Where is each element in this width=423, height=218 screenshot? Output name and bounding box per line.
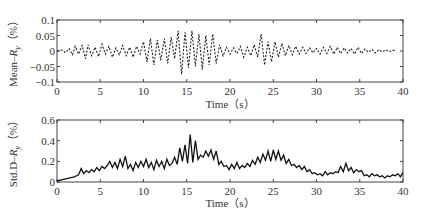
x-tick-label: 0 — [54, 185, 60, 197]
x-tick-label: 40 — [398, 185, 410, 197]
top-panel: 0510152025303540 −0.1−0.0500.050.1 Time（… — [7, 14, 409, 110]
x-tick-label: 0 — [54, 85, 60, 97]
std-ry-solid-line — [57, 135, 403, 182]
mean-ry-dashed-line — [57, 31, 396, 74]
bottom-panel: 0510152025303540 00.20.40.6 Time（s） Std.… — [7, 114, 409, 209]
x-tick-label: 30 — [311, 185, 323, 197]
bottom-y-tick-labels: 00.20.40.6 — [41, 114, 55, 188]
x-tick-label: 20 — [225, 85, 237, 97]
y-tick-label: 0.6 — [41, 114, 55, 126]
top-x-axis-title: Time（s） — [205, 98, 254, 110]
x-tick-label: 10 — [138, 85, 150, 97]
y-tick-label: 0.2 — [41, 155, 55, 167]
x-tick-label: 40 — [398, 85, 410, 97]
x-tick-label: 20 — [225, 185, 237, 197]
x-tick-label: 10 — [138, 185, 150, 197]
top-y-axis-title: Mean–Ry（%） — [7, 15, 22, 87]
x-tick-label: 30 — [311, 85, 323, 97]
top-axes-frame — [57, 20, 403, 82]
bottom-y-axis-title: Std.D–Ry（%） — [7, 115, 22, 187]
top-x-tick-labels: 0510152025303540 — [54, 85, 409, 97]
y-tick-label: −0.1 — [35, 76, 55, 88]
y-tick-label: 0.1 — [41, 14, 55, 26]
top-ticks — [57, 20, 403, 82]
x-tick-label: 35 — [354, 185, 366, 197]
x-tick-label: 25 — [268, 185, 280, 197]
top-y-tick-labels: −0.1−0.0500.050.1 — [30, 14, 56, 88]
x-tick-label: 5 — [98, 85, 104, 97]
y-tick-label: 0.05 — [36, 30, 56, 42]
x-tick-label: 15 — [181, 185, 193, 197]
bottom-x-tick-labels: 0510152025303540 — [54, 185, 409, 197]
x-tick-label: 35 — [354, 85, 366, 97]
x-tick-label: 15 — [181, 85, 193, 97]
y-tick-label: −0.05 — [30, 61, 56, 73]
y-tick-label: 0 — [50, 176, 56, 188]
y-tick-label: 0.4 — [41, 135, 55, 147]
x-tick-label: 5 — [98, 185, 104, 197]
bottom-axes-frame — [57, 120, 403, 182]
x-tick-label: 25 — [268, 85, 280, 97]
figure: 0510152025303540 −0.1−0.0500.050.1 Time（… — [0, 0, 423, 218]
bottom-x-axis-title: Time（s） — [205, 197, 254, 209]
y-tick-label: 0 — [50, 45, 56, 57]
bottom-ticks — [57, 120, 403, 182]
